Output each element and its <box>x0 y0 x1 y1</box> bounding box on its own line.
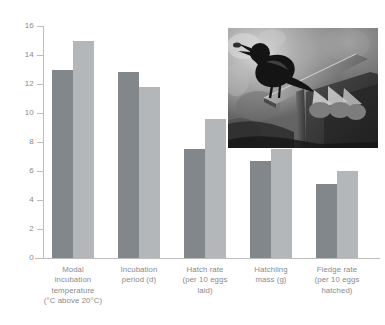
y-axis-tick-mark <box>37 113 43 114</box>
y-axis-tick-label: 10 <box>10 109 34 117</box>
bar <box>73 41 94 259</box>
bar <box>52 70 73 259</box>
bar <box>184 149 205 258</box>
bar <box>118 72 139 258</box>
y-axis-tick-mark <box>37 200 43 201</box>
x-axis-category-label: Hatch rate (per 10 eggs laid) <box>167 265 243 296</box>
bar <box>337 171 358 258</box>
bar-group <box>118 26 160 258</box>
bar <box>316 184 337 258</box>
y-axis-tick-mark <box>37 84 43 85</box>
bar <box>250 161 271 258</box>
y-axis-tick-label: 4 <box>10 196 34 204</box>
bar-chart-figure: 0246810121416 Modal incubation temperatu… <box>0 0 385 325</box>
y-axis-tick-mark <box>37 229 43 230</box>
y-axis-tick-label: 2 <box>10 225 34 233</box>
bar <box>271 149 292 258</box>
y-axis-tick-labels: 0246810121416 <box>6 0 34 325</box>
y-axis-tick-label: 6 <box>10 167 34 175</box>
bar-group <box>52 26 94 258</box>
starling-at-nest-box-photo <box>228 28 378 148</box>
x-axis-category-label: Hatchling mass (g) <box>233 265 309 286</box>
y-axis-tick-mark <box>37 258 43 259</box>
y-axis-tick-mark <box>37 55 43 56</box>
x-axis-category-label: Modal incubation temperature (°C above 2… <box>35 265 111 307</box>
y-axis-tick-mark <box>37 26 43 27</box>
y-axis-tick-label: 14 <box>10 51 34 59</box>
bar-group <box>184 26 226 258</box>
bar <box>139 87 160 258</box>
x-axis-category-label: Fledge rate (per 10 eggs hatched) <box>299 265 375 296</box>
y-axis-tick-label: 12 <box>10 80 34 88</box>
bar <box>205 119 226 258</box>
y-axis-tick-mark <box>37 171 43 172</box>
x-axis-line <box>35 258 380 259</box>
y-axis-tick-mark <box>37 142 43 143</box>
y-axis-tick-label: 0 <box>10 254 34 262</box>
y-axis-tick-label: 8 <box>10 138 34 146</box>
y-axis-tick-label: 16 <box>10 22 34 30</box>
x-axis-category-label: Incubation period (d) <box>101 265 177 286</box>
